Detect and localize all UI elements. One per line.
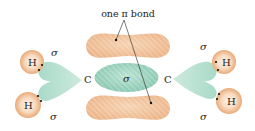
pi-bond-annotation-label: one π bond (101, 8, 155, 19)
ch-sigma-label-right-bottom: σ (200, 111, 208, 122)
hydrogen-label-right-bottom: H (227, 96, 236, 107)
ch-sigma-label-left-bottom: σ (50, 111, 58, 122)
pi-lobe-bottom (86, 95, 170, 119)
right-ch-sigma-lobes (173, 62, 217, 99)
hydrogen-label-left-top: H (28, 57, 37, 68)
hydrogen-label-right-top: H (222, 57, 231, 68)
ch-sigma-label-right-top: σ (200, 41, 208, 52)
cc-sigma-label: σ (123, 73, 131, 84)
hydrogen-label-left-bottom: H (24, 100, 33, 111)
carbon-label-right: C (164, 74, 172, 85)
left-ch-sigma-lobes (38, 62, 82, 101)
ch-sigma-label-left-top: σ (51, 47, 59, 58)
ethylene-orbital-diagram: H H H H C C σ σ σ σ σ one π bond (0, 0, 255, 131)
pi-lobe-top (86, 33, 170, 57)
carbon-label-left: C (84, 74, 92, 85)
